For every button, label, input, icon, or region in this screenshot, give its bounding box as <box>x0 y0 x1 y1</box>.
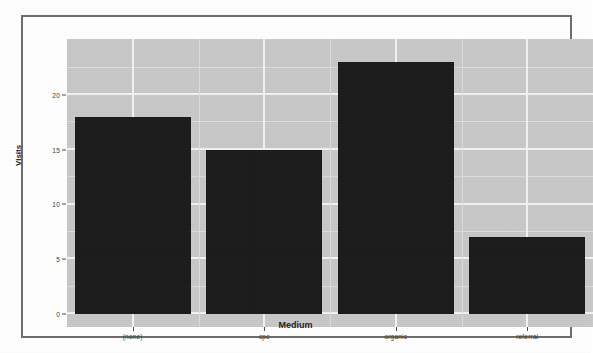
y-tick-mark <box>62 314 66 315</box>
y-tick-label: 10 <box>52 201 60 208</box>
x-tick-label: organic <box>384 333 407 340</box>
bar[interactable] <box>206 150 322 314</box>
x-tick-label: referral <box>516 333 538 340</box>
y-tick-mark <box>62 149 66 150</box>
y-tick-mark <box>62 259 66 260</box>
bar[interactable] <box>338 62 454 314</box>
bar[interactable] <box>469 237 585 314</box>
x-axis-title: Medium <box>0 320 591 330</box>
y-tick-label: 0 <box>56 311 60 318</box>
x-axis-title-text: Medium <box>278 320 312 330</box>
plot-area <box>67 39 593 327</box>
chart-figure-frame: 05101520 (none)cpcorganicreferral <box>21 15 572 338</box>
y-tick-label: 5 <box>56 256 60 263</box>
x-tick-label: cpc <box>259 333 270 340</box>
y-tick-label: 20 <box>52 91 60 98</box>
y-tick-mark <box>62 94 66 95</box>
bar[interactable] <box>75 117 191 314</box>
y-axis-title: Visits <box>14 145 23 166</box>
x-tick-label: (none) <box>123 333 143 340</box>
y-tick-label: 15 <box>52 146 60 153</box>
bar-series <box>67 39 593 327</box>
y-axis-title-text: Visits <box>14 145 23 166</box>
y-tick-mark <box>62 204 66 205</box>
